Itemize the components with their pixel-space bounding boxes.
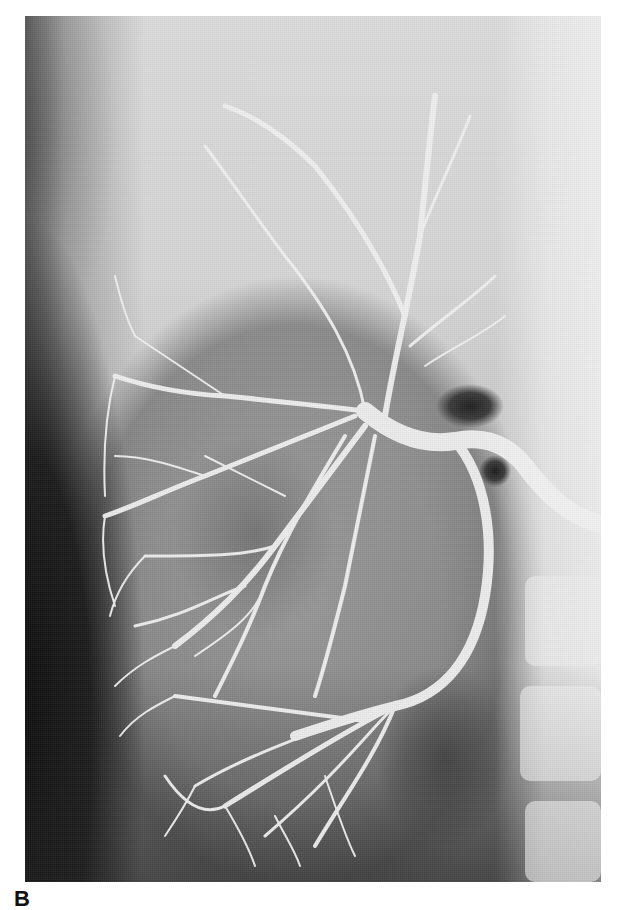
angiogram-figure [25, 16, 601, 882]
figure-panel-label: B [14, 888, 30, 910]
film-grain [25, 16, 601, 882]
